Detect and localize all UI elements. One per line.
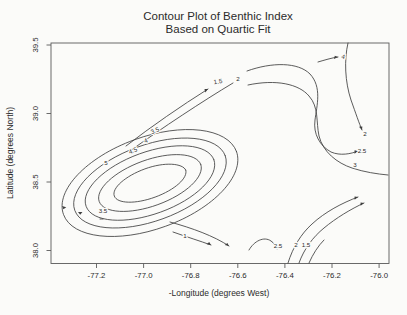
chart-title-line1: Contour Plot of Benthic Index: [143, 10, 293, 22]
x-tick-label: -76.6: [229, 271, 247, 280]
y-tick-label: 39.5: [31, 37, 40, 53]
contour-line: [99, 155, 202, 212]
x-tick-label: -76.0: [370, 271, 388, 280]
x-axis-label: -Longitude (degrees West): [169, 288, 270, 298]
x-tick-label: -76.8: [182, 271, 200, 280]
y-tick-label: 38.5: [31, 174, 40, 190]
contour-line: [74, 138, 227, 228]
contour-label: 2: [236, 75, 240, 82]
contour-label: 3: [353, 161, 357, 168]
contour-line: [288, 197, 358, 263]
contour-line: [346, 43, 362, 130]
x-tick-label: -77.2: [88, 271, 106, 280]
contour-label: 3.5: [149, 125, 160, 135]
contour-line: [247, 65, 358, 155]
contour-label: 4: [143, 136, 149, 144]
contour-line: [62, 130, 238, 237]
contour-label: 2: [294, 241, 298, 248]
contour-arrowhead: [225, 242, 230, 247]
contour-figure: Contour Plot of Benthic Index Based on Q…: [0, 0, 407, 315]
contour-label: 2.5: [358, 147, 367, 154]
contour-label: 1: [183, 232, 187, 239]
contour-arrowhead: [77, 211, 82, 215]
contour-label: 5: [104, 159, 108, 166]
x-tick-label: -77.0: [135, 271, 153, 280]
contour-line: [309, 240, 324, 263]
plot-area: -77.2-77.0-76.8-76.6-76.4-76.2-76.039.53…: [31, 37, 389, 280]
contour-label: 2: [363, 130, 367, 137]
y-tick-label: 38.0: [31, 242, 40, 258]
plot-frame: [51, 43, 389, 264]
contour-line: [126, 89, 208, 146]
x-tick-label: -76.2: [323, 271, 341, 280]
y-axis-label: Latitude (degrees North): [5, 107, 15, 199]
contour-arrowhead: [334, 55, 339, 59]
contour-label: 2.5: [274, 242, 283, 249]
contour-plot-svg: Contour Plot of Benthic Index Based on Q…: [0, 0, 407, 315]
contour-line: [299, 203, 364, 263]
contour-label: 1.5: [302, 241, 311, 248]
contour-arrowhead: [353, 195, 358, 200]
contour-label: 3.5: [99, 207, 108, 214]
x-tick-label: -76.4: [276, 271, 294, 280]
contour-label: 1.5: [213, 77, 223, 85]
contour-arrowhead: [207, 241, 212, 246]
y-tick-label: 39.0: [31, 105, 40, 121]
chart-title-line2: Based on Quartic Fit: [166, 23, 272, 35]
